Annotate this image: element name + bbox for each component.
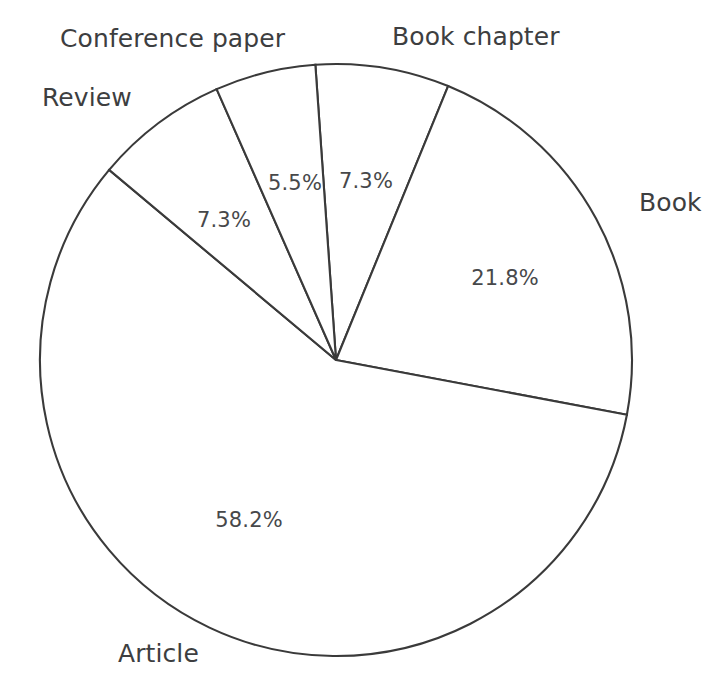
slice-category-label-review: Review (42, 83, 132, 112)
pie-chart-figure: 7.3% 21.8% 58.2% 7.3% 5.5% Conference pa… (0, 0, 720, 696)
slice-category-label-book: Book (639, 188, 702, 217)
slice-percent-label-conference-paper: 5.5% (268, 171, 322, 195)
slice-category-label-article: Article (118, 639, 199, 668)
slice-percent-label-review: 7.3% (197, 208, 251, 232)
pie-slices-group (40, 64, 632, 656)
slice-category-label-conference-paper: Conference paper (60, 24, 285, 53)
slice-percent-label-book: 21.8% (471, 266, 539, 290)
slice-category-label-book-chapter: Book chapter (392, 22, 560, 51)
slice-percent-label-book-chapter: 7.3% (339, 169, 393, 193)
slice-percent-label-article: 58.2% (215, 508, 283, 532)
